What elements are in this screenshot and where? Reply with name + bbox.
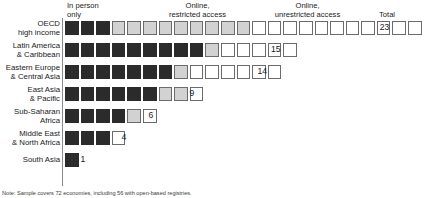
square-in-person-only	[190, 43, 204, 57]
square-online-unrestricted-access	[268, 65, 282, 79]
chart-row: Sub-SaharanAfrica6	[0, 106, 409, 128]
row-label-line1: South Asia	[0, 155, 60, 164]
row-squares	[65, 65, 283, 78]
row-label-line2: & Pacific	[0, 94, 60, 103]
square-in-person-only	[65, 43, 79, 57]
square-in-person-only	[65, 87, 79, 101]
square-in-person-only	[143, 65, 157, 79]
square-in-person-only	[112, 65, 126, 79]
row-label-line2: Africa	[0, 116, 60, 125]
square-online-unrestricted-access	[283, 43, 297, 57]
square-online-restricted-access	[221, 21, 235, 35]
square-online-unrestricted-access	[408, 21, 422, 35]
square-in-person-only	[81, 87, 95, 101]
chart-footnote: Note: Sample covers 72 economies, includ…	[2, 190, 402, 197]
square-in-person-only	[159, 65, 173, 79]
column-header-online-restricted-access: Online, restricted access	[135, 1, 260, 19]
row-label-line2: high income	[0, 28, 60, 37]
chart-row: Latin America& Caribbean15	[0, 40, 409, 62]
column-header-line1: Online,	[245, 1, 370, 10]
row-label-line1: Eastern Europe	[0, 63, 60, 72]
square-online-unrestricted-access	[283, 21, 297, 35]
square-online-restricted-access	[159, 87, 173, 101]
row-label: South Asia	[0, 155, 60, 164]
square-online-unrestricted-access	[190, 65, 204, 79]
column-header-line1: Online,	[135, 1, 260, 10]
square-online-unrestricted-access	[392, 21, 406, 35]
row-total-value: 1	[81, 153, 86, 165]
square-in-person-only	[112, 109, 126, 123]
row-squares	[65, 109, 159, 122]
row-label-line2: & Central Asia	[0, 72, 60, 81]
chart-row: OECDhigh income23	[0, 18, 409, 40]
square-online-restricted-access	[190, 21, 204, 35]
square-in-person-only	[159, 43, 173, 57]
row-label-line2: & Caribbean	[0, 50, 60, 59]
square-in-person-only	[127, 65, 141, 79]
square-online-unrestricted-access	[330, 21, 344, 35]
row-squares	[65, 131, 127, 144]
row-squares	[65, 43, 299, 56]
row-label: Eastern Europe& Central Asia	[0, 63, 60, 82]
chart-row: Middle East& North Africa4	[0, 128, 409, 150]
square-in-person-only	[81, 43, 95, 57]
column-header-online-unrestricted-access: Online, unrestricted access	[245, 1, 370, 19]
square-in-person-only	[96, 87, 110, 101]
row-total-value: 9	[189, 87, 194, 99]
square-in-person-only	[65, 131, 79, 145]
row-label-line2: & North Africa	[0, 138, 60, 147]
row-label-line1: Latin America	[0, 41, 60, 50]
chart-row: Eastern Europe& Central Asia14	[0, 62, 409, 84]
row-label: Middle East& North Africa	[0, 129, 60, 148]
square-online-unrestricted-access	[299, 21, 313, 35]
row-label: OECDhigh income	[0, 19, 60, 38]
chart-row: East Asia& Pacific9	[0, 84, 409, 106]
square-online-restricted-access	[143, 21, 157, 35]
square-in-person-only	[81, 65, 95, 79]
chart-row: South Asia1	[0, 150, 409, 172]
square-online-restricted-access	[205, 21, 219, 35]
row-label-line1: Sub-Saharan	[0, 107, 60, 116]
square-in-person-only	[112, 43, 126, 57]
square-online-restricted-access	[205, 43, 219, 57]
square-in-person-only	[81, 131, 95, 145]
chart-rows: OECDhigh income23Latin America& Caribbea…	[0, 18, 409, 172]
square-in-person-only	[65, 153, 79, 167]
square-online-unrestricted-access	[221, 43, 235, 57]
square-in-person-only	[143, 87, 157, 101]
row-total-value: 23	[380, 21, 390, 33]
square-online-restricted-access	[127, 109, 141, 123]
row-total-value: 15	[271, 43, 281, 55]
row-label-line1: OECD	[0, 19, 60, 28]
square-in-person-only	[96, 131, 110, 145]
row-total-value: 14	[257, 65, 267, 77]
row-total-value: 4	[121, 131, 126, 143]
square-online-unrestricted-access	[315, 21, 329, 35]
row-squares	[65, 153, 81, 166]
row-label: East Asia& Pacific	[0, 85, 60, 104]
square-online-unrestricted-access	[252, 43, 266, 57]
square-online-restricted-access	[174, 87, 188, 101]
square-in-person-only	[112, 87, 126, 101]
column-headers: In person only Online, restricted access…	[0, 0, 409, 20]
square-in-person-only	[96, 43, 110, 57]
square-online-restricted-access	[159, 21, 173, 35]
square-online-unrestricted-access	[252, 21, 266, 35]
square-online-restricted-access	[237, 21, 251, 35]
row-label: Sub-SaharanAfrica	[0, 107, 60, 126]
row-squares	[65, 87, 205, 100]
square-online-restricted-access	[174, 65, 188, 79]
square-in-person-only	[65, 65, 79, 79]
square-in-person-only	[127, 43, 141, 57]
square-in-person-only	[96, 109, 110, 123]
square-in-person-only	[96, 65, 110, 79]
row-label-line1: Middle East	[0, 129, 60, 138]
row-label: Latin America& Caribbean	[0, 41, 60, 60]
square-in-person-only	[143, 43, 157, 57]
square-online-unrestricted-access	[361, 21, 375, 35]
square-in-person-only	[96, 21, 110, 35]
square-online-unrestricted-access	[237, 65, 251, 79]
row-squares	[65, 21, 424, 34]
square-online-unrestricted-access	[346, 21, 360, 35]
